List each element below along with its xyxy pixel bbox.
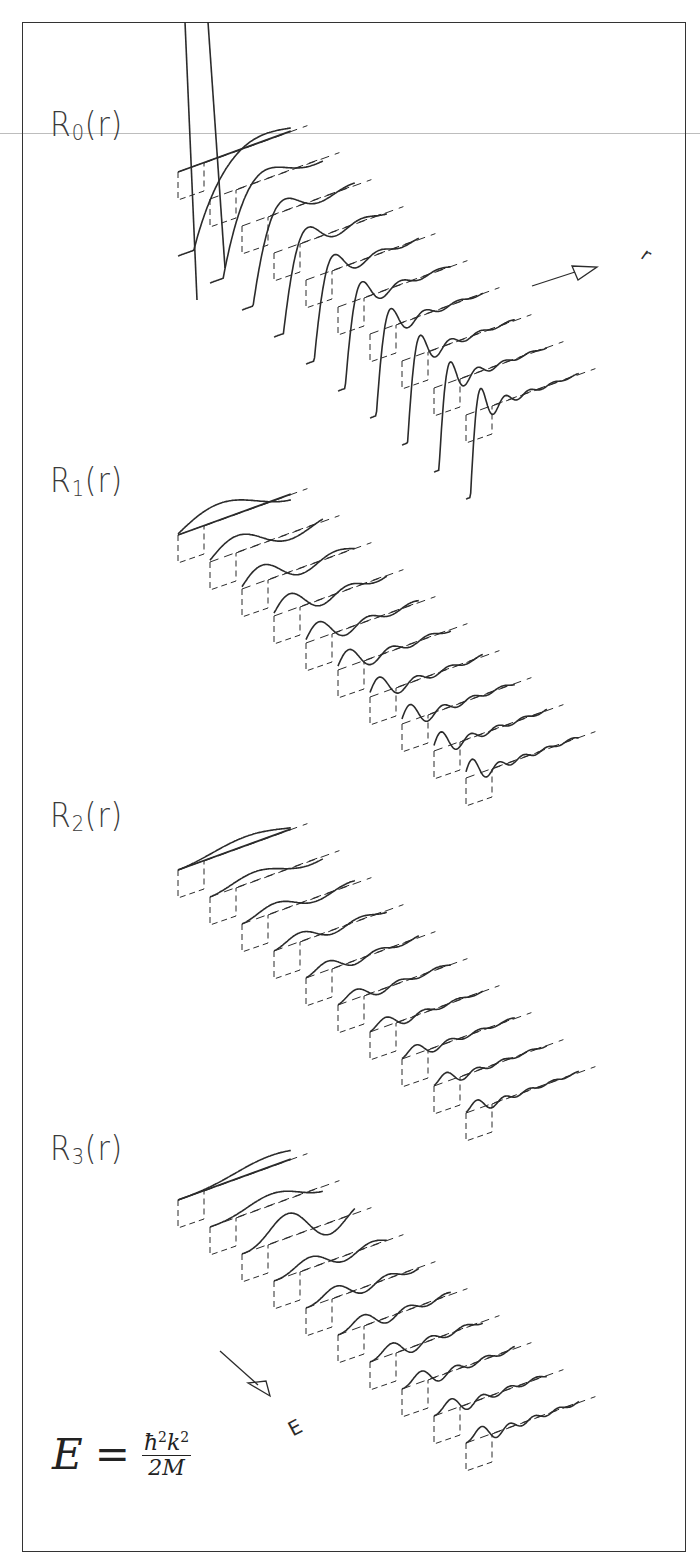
panel-1 <box>178 489 595 806</box>
energy-axis-arrow-icon <box>220 1351 270 1396</box>
waterfall-plots: rE <box>0 0 700 1563</box>
slice-baseline-box <box>178 526 204 563</box>
energy-axis-label: E <box>284 1414 306 1441</box>
panel-label-r2: R2(r) <box>50 795 123 835</box>
wavefunction-curve <box>306 601 419 640</box>
equation-lhs: E <box>52 1430 83 1479</box>
slice-baseline-box <box>242 1245 268 1282</box>
slice-baseline-box <box>242 217 268 254</box>
wavefunction-curve <box>370 293 483 418</box>
panel-label-r0: R0(r) <box>50 104 123 144</box>
slice-baseline-box <box>306 1299 332 1336</box>
r0-spike <box>208 22 225 268</box>
wavefunction-curve <box>242 549 355 587</box>
equation-numerator: ħ2k2 <box>142 1430 191 1456</box>
wavefunction-curve <box>274 576 387 613</box>
slice-baseline-box <box>210 888 236 925</box>
panel-2 <box>178 824 595 1141</box>
panel-0 <box>178 126 595 499</box>
slice-baseline-box <box>210 553 236 590</box>
energy-equation: E = ħ2k2 2M <box>52 1430 191 1480</box>
r-axis-arrow-icon <box>532 266 597 286</box>
slice-baseline-box <box>466 406 492 443</box>
first-slice-baseline <box>178 829 291 870</box>
r-axis-label: r <box>637 244 656 266</box>
wavefunction-curve <box>466 373 579 499</box>
slice-baseline-box <box>466 769 492 806</box>
slice-baseline-box <box>274 942 300 979</box>
slice-baseline-box <box>370 688 396 725</box>
wavefunction-curve <box>434 709 547 749</box>
slice-baseline-box <box>178 1191 204 1228</box>
slice-baseline-box <box>466 1104 492 1141</box>
first-slice-baseline <box>178 131 291 172</box>
slice-baseline-box <box>434 742 460 779</box>
wavefunction-curve <box>370 655 483 694</box>
panel-label-r3: R3(r) <box>50 1128 123 1168</box>
slice-baseline-box <box>274 607 300 644</box>
slice-baseline-box <box>338 661 364 698</box>
equation-denominator: 2M <box>148 1456 185 1479</box>
slice-baseline-box <box>338 1326 364 1363</box>
figure: rE R0(r) R1(r) R2(r) R3(r) E = ħ2k2 2M <box>0 0 700 1563</box>
panel-label-r1: R1(r) <box>50 460 123 500</box>
panel-3 <box>178 1151 595 1472</box>
equation-fraction: ħ2k2 2M <box>142 1430 191 1480</box>
slice-baseline-box <box>306 271 332 308</box>
wavefunction-curve <box>210 519 323 560</box>
slice-baseline-box <box>242 915 268 952</box>
wavefunction-curve <box>402 320 515 445</box>
wavefunction-curve <box>306 238 419 364</box>
slice-baseline-box <box>242 580 268 617</box>
wavefunction-curve <box>402 685 515 722</box>
equation-equals: = <box>95 1430 130 1479</box>
r0-spike <box>185 22 197 300</box>
slice-baseline-box <box>274 1272 300 1309</box>
wavefunction-curve <box>338 631 451 666</box>
slice-baseline-box <box>434 379 460 416</box>
slice-baseline-box <box>178 861 204 898</box>
slice-baseline-box <box>402 1380 428 1417</box>
slice-baseline-box <box>306 634 332 671</box>
slice-baseline-box <box>370 1353 396 1390</box>
wavefunction-curve <box>338 267 451 391</box>
slice-baseline-box <box>210 1218 236 1255</box>
slice-baseline-box <box>210 190 236 227</box>
wavefunction-curve <box>242 1209 355 1255</box>
wavefunction-curve <box>466 1071 579 1112</box>
